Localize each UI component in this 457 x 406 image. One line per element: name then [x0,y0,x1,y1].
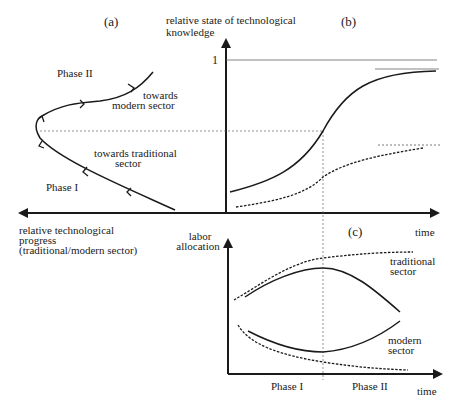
b-y-axis-label-line2: knowledge [166,27,214,38]
c-x-axis-label: time [417,386,437,397]
b-x-axis-label: time [415,227,435,238]
a-towards-traditional-line2: sector [115,158,141,169]
b-dashed-curve [236,148,423,207]
c-traditional-label-line2: sector [390,266,416,277]
b-y-axis-label-line1: relative state of technological [166,15,296,26]
c-modern-label-line2: sector [388,345,414,356]
c-traditional-solid-curve [245,268,400,312]
c-modern-solid-curve [248,321,400,352]
a-phase1-label: Phase I [46,182,78,193]
b-solid-sshape-curve [230,71,436,192]
panel-label-c: (c) [348,226,362,237]
c-y-axis-label-line2: allocation [174,241,222,252]
a-x-axis-label-line3: (traditional/modern sector) [19,245,137,256]
b-y-tick-one: 1 [212,55,218,66]
panel-label-a: (a) [104,16,118,27]
c-traditional-dashed-curve [234,252,413,300]
panel-label-b: (b) [341,16,356,27]
a-phase2-label: Phase II [57,68,93,79]
c-phase1-label: Phase I [271,381,303,392]
c-phase2-label: Phase II [352,381,388,392]
a-towards-modern-line2: modern sector [112,100,175,111]
